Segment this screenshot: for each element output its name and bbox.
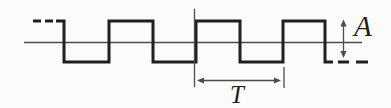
square-wave-diagram: T A [0,0,391,107]
period-arrow-head-end [274,77,281,83]
amplitude-label: A [352,10,372,42]
period-label: T [230,81,246,108]
square-wave-figure: T A [0,0,391,107]
waveform-layer [24,9,368,88]
amplitude-arrow-head-start [340,20,346,27]
amplitude-arrow-head-end [340,51,346,58]
period-arrow-head-start [197,77,204,83]
